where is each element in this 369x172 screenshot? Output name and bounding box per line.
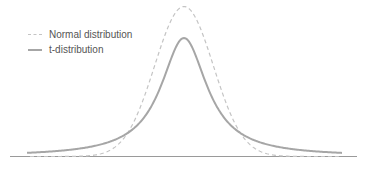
legend-item-normal: Normal distribution bbox=[28, 27, 132, 42]
legend-label: Normal distribution bbox=[49, 27, 132, 42]
legend: Normal distribution t-distribution bbox=[28, 27, 132, 57]
dashed-line-swatch-icon bbox=[28, 34, 42, 35]
legend-item-t: t-distribution bbox=[28, 42, 132, 57]
distribution-chart bbox=[0, 0, 369, 172]
legend-label: t-distribution bbox=[49, 42, 103, 57]
solid-line-swatch-icon bbox=[28, 49, 42, 51]
